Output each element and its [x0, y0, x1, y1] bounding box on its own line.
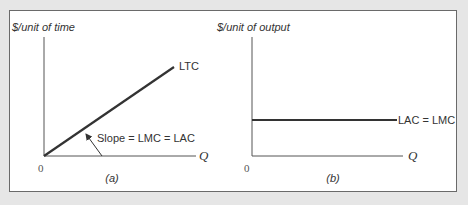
slope-annotation: Slope = LMC = LAC	[97, 132, 195, 144]
panel-a: $/unit of time Q 0 (a) LTC Slope = LMC =…	[11, 21, 209, 184]
panel-a-caption: (a)	[105, 172, 119, 184]
ltc-label: LTC	[179, 60, 199, 72]
panel-b-y-axis-label: $/unit of output	[216, 21, 291, 33]
panel-b-caption: (b)	[326, 172, 340, 184]
panel-b-x-axis-label: Q	[408, 148, 418, 163]
panel-b-origin-label: 0	[244, 162, 250, 174]
panel-a-x-axis-label: Q	[199, 148, 209, 163]
panel-b: $/unit of output Q 0 (b) LAC = LMC	[216, 21, 455, 184]
panel-a-origin-label: 0	[38, 162, 44, 174]
lac-lmc-label: LAC = LMC	[398, 114, 455, 126]
panel-a-y-axis-label: $/unit of time	[11, 21, 75, 33]
figure-svg: $/unit of time Q 0 (a) LTC Slope = LMC =…	[0, 0, 468, 205]
